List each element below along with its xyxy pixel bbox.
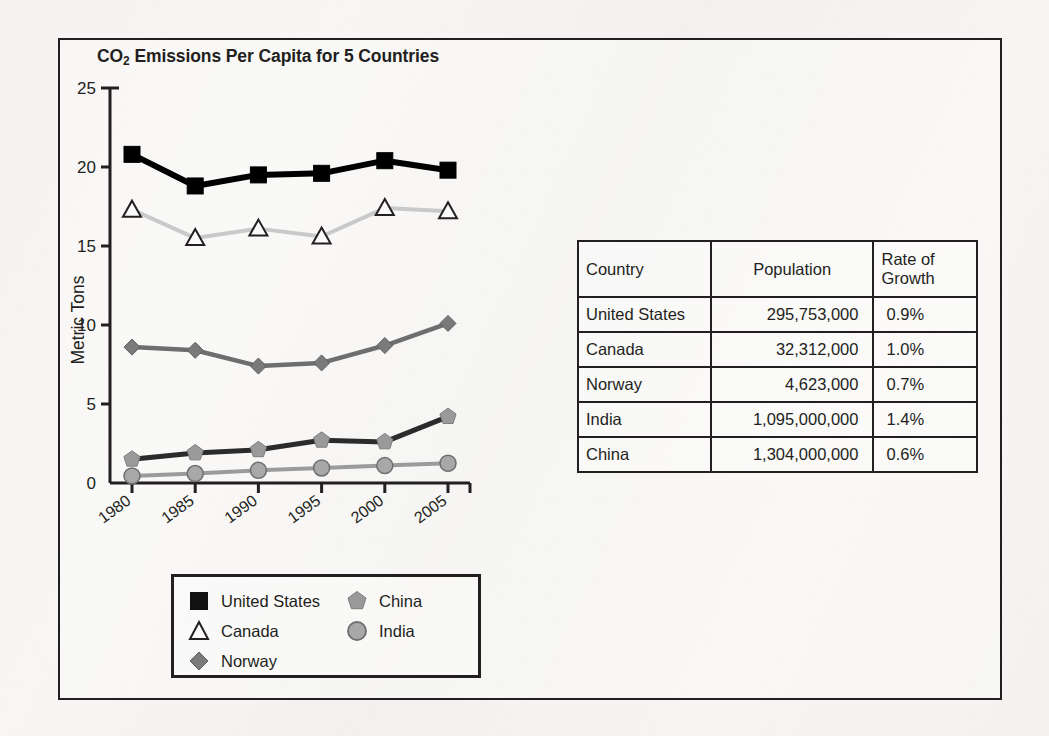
chart-title-subscript: 2 (123, 54, 130, 68)
chart-series-layer (123, 146, 457, 484)
table: Country Population Rate of Growth United… (577, 240, 978, 473)
cell-rate: 1.0% (873, 332, 977, 367)
series-united-states (124, 146, 456, 194)
data-point-marker (123, 201, 141, 217)
cell-country: India (578, 402, 711, 437)
legend-marker-canada (188, 620, 210, 642)
legend-column-right: ChinaIndia (346, 587, 422, 647)
chart-legend: United StatesCanadaNorway ChinaIndia (171, 574, 481, 678)
cell-population: 4,623,000 (711, 367, 874, 402)
data-point-marker (377, 458, 393, 474)
legend-marker-china (346, 590, 368, 612)
data-point-marker (124, 451, 140, 466)
cell-population: 32,312,000 (711, 332, 874, 367)
x-tick-label: 1980 (95, 492, 134, 527)
cell-country: China (578, 437, 711, 472)
data-point-marker (187, 342, 203, 358)
cell-country: Canada (578, 332, 711, 367)
table-row: Norway4,623,0000.7% (578, 367, 977, 402)
table-row: Canada32,312,0001.0% (578, 332, 977, 367)
data-point-marker (250, 441, 266, 456)
series-norway (124, 315, 456, 374)
pentagon-marker-icon (346, 590, 368, 612)
data-point-marker (124, 468, 140, 484)
data-point-marker (440, 162, 456, 178)
cell-country: United States (578, 297, 711, 332)
legend-label: India (379, 622, 415, 641)
legend-label: Norway (221, 652, 277, 671)
x-tick-label: 1995 (285, 492, 324, 527)
legend-marker-norway (188, 650, 210, 672)
series-china (124, 408, 456, 466)
column-header-rate-of-growth: Rate of Growth (873, 241, 977, 297)
y-tick-label: 15 (77, 237, 96, 256)
data-point-marker (314, 165, 330, 181)
data-point-marker (314, 355, 330, 371)
data-point-marker (314, 460, 330, 476)
data-point-marker (187, 444, 203, 459)
series-canada (123, 199, 457, 245)
line-chart-plot: 0510152025 198019851990199520002005 Metr… (70, 70, 550, 540)
data-point-marker (314, 432, 330, 447)
legend-item-canada[interactable]: Canada (188, 617, 320, 645)
circle-marker-icon (346, 620, 368, 642)
legend-item-united-states[interactable]: United States (188, 587, 320, 615)
data-point-marker (377, 153, 393, 169)
data-point-marker (187, 178, 203, 194)
cell-population: 1,304,000,000 (711, 437, 874, 472)
data-point-marker (187, 466, 203, 482)
data-point-marker (250, 358, 266, 374)
x-tick-label: 1985 (158, 492, 197, 527)
y-axis-title: Metric Tons (70, 275, 88, 364)
chart-title-rest: Emissions Per Capita for 5 Countries (130, 46, 439, 66)
y-axis-title-text: Metric Tons (70, 275, 88, 364)
y-tick-label: 0 (87, 474, 96, 493)
table-row: United States295,753,0000.9% (578, 297, 977, 332)
data-point-marker (250, 462, 266, 478)
legend-item-norway[interactable]: Norway (188, 647, 320, 675)
data-point-marker (440, 455, 456, 471)
table-head: Country Population Rate of Growth (578, 241, 977, 297)
legend-label: China (379, 592, 422, 611)
legend-item-india[interactable]: India (346, 617, 422, 645)
cell-rate: 0.9% (873, 297, 977, 332)
square-marker-icon (188, 590, 210, 612)
table-row: China1,304,000,0000.6% (578, 437, 977, 472)
data-point-marker (124, 339, 140, 355)
data-point-marker (250, 167, 266, 183)
x-tick-label: 1990 (221, 492, 260, 527)
data-point-marker (377, 433, 393, 448)
data-point-marker (440, 315, 456, 331)
chart-title: CO2 Emissions Per Capita for 5 Countries (97, 46, 439, 67)
chart-axes (110, 88, 470, 483)
x-tick-label: 2000 (348, 492, 387, 527)
population-data-table: Country Population Rate of Growth United… (577, 240, 978, 473)
cell-rate: 0.6% (873, 437, 977, 472)
cell-population: 295,753,000 (711, 297, 874, 332)
legend-column-left: United StatesCanadaNorway (188, 587, 320, 677)
column-header-population: Population (711, 241, 874, 297)
data-point-marker (440, 408, 456, 423)
column-header-country: Country (578, 241, 711, 297)
x-axis-tick-labels: 198019851990199520002005 (95, 492, 450, 527)
triangle-marker-icon (188, 620, 210, 642)
legend-label: United States (221, 592, 320, 611)
legend-marker-united-states (188, 590, 210, 612)
cell-rate: 0.7% (873, 367, 977, 402)
table-body: United States295,753,0000.9%Canada32,312… (578, 297, 977, 472)
legend-label: Canada (221, 622, 279, 641)
cell-country: Norway (578, 367, 711, 402)
rate-header-line-1: Rate of (881, 250, 934, 268)
data-point-marker (124, 146, 140, 162)
y-tick-label: 25 (77, 79, 96, 98)
data-point-marker (377, 338, 393, 354)
legend-item-china[interactable]: China (346, 587, 422, 615)
legend-marker-india (346, 620, 368, 642)
table-header-row: Country Population Rate of Growth (578, 241, 977, 297)
chart-title-prefix: CO (97, 46, 123, 66)
y-tick-label: 20 (77, 158, 96, 177)
series-india (124, 455, 456, 484)
cell-rate: 1.4% (873, 402, 977, 437)
x-tick-label: 2005 (411, 492, 450, 527)
table-row: India1,095,000,0001.4% (578, 402, 977, 437)
